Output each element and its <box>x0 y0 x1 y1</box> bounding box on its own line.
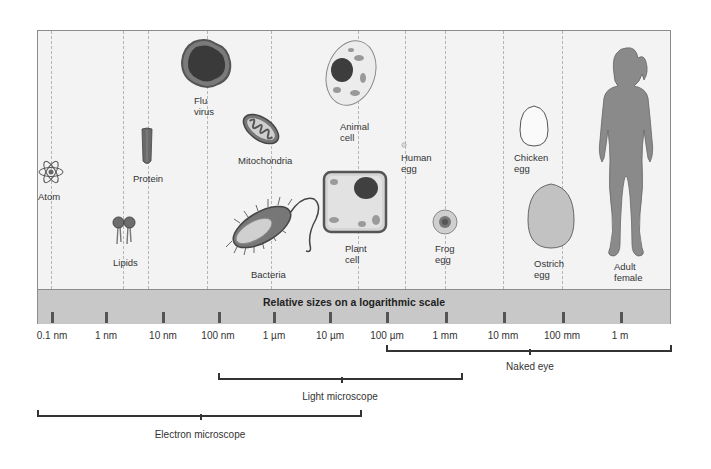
mitochondria-icon <box>241 107 281 151</box>
scale-tick <box>386 312 389 323</box>
protein-label: Protein <box>133 174 163 185</box>
animal-cell-label: Animal cell <box>340 122 369 143</box>
electron-microscope-label: Electron microscope <box>155 429 246 440</box>
guide-line <box>123 31 124 289</box>
scale-label: 10 mm <box>488 330 519 341</box>
protein-icon <box>139 127 155 167</box>
plant-cell-icon <box>322 170 388 234</box>
scale-label: 100 µm <box>370 330 404 341</box>
scale-tick <box>503 312 506 323</box>
human-egg-icon <box>401 142 407 148</box>
scale-label: 10 nm <box>149 330 177 341</box>
scale-label: 1 nm <box>95 330 117 341</box>
adult-female-label: Adult female <box>614 262 643 283</box>
plant-cell-label: Plant cell <box>345 244 367 265</box>
scale-label: 0.1 nm <box>37 330 68 341</box>
bacteria-label: Bacteria <box>251 270 286 281</box>
naked-eye-label: Naked eye <box>506 361 554 372</box>
guide-line <box>562 31 563 289</box>
naked-eye-bracket <box>386 345 672 352</box>
scale-label: 1 m <box>612 330 629 341</box>
flu-virus-icon <box>180 38 232 90</box>
electron-microscope-bracket <box>37 410 362 417</box>
frog-egg-icon <box>432 209 458 235</box>
scale-tick <box>218 312 221 323</box>
light-microscope-label: Light microscope <box>302 391 378 402</box>
atom-label: Atom <box>38 192 60 203</box>
adult-female-icon <box>596 46 662 260</box>
scale-title: Relative sizes on a logarithmic scale <box>38 296 670 308</box>
lipids-icon <box>110 216 138 246</box>
scale-tick <box>273 312 276 323</box>
chicken-egg-icon <box>518 104 550 148</box>
human-egg-label: Human egg <box>401 153 432 174</box>
flu-virus-label: Flu virus <box>194 96 214 117</box>
scale-label: 1 µm <box>263 330 285 341</box>
scale-tick <box>562 312 565 323</box>
scale-tick <box>329 312 332 323</box>
scale-tick <box>620 312 623 323</box>
mitochondria-label: Mitochondria <box>238 156 292 167</box>
scale-band: Relative sizes on a logarithmic scale <box>38 289 670 324</box>
atom-icon <box>38 155 64 189</box>
animal-cell-icon <box>325 38 377 108</box>
ostrich-egg-icon <box>526 182 576 250</box>
bacteria-icon <box>222 193 322 255</box>
guide-line <box>503 31 504 289</box>
ostrich-egg-label: Ostrich egg <box>534 259 564 280</box>
scale-tick <box>162 312 165 323</box>
scale-tick <box>51 312 54 323</box>
chicken-egg-label: Chicken egg <box>514 153 548 174</box>
scale-tick <box>445 312 448 323</box>
scale-label: 100 nm <box>201 330 234 341</box>
lipids-label: Lipids <box>113 258 138 269</box>
light-microscope-bracket <box>218 373 463 380</box>
scale-label: 100 mm <box>544 330 580 341</box>
scale-label: 1 mm <box>433 330 458 341</box>
scale-tick <box>105 312 108 323</box>
scale-label: 10 µm <box>316 330 344 341</box>
frog-egg-label: Frog egg <box>435 244 455 265</box>
